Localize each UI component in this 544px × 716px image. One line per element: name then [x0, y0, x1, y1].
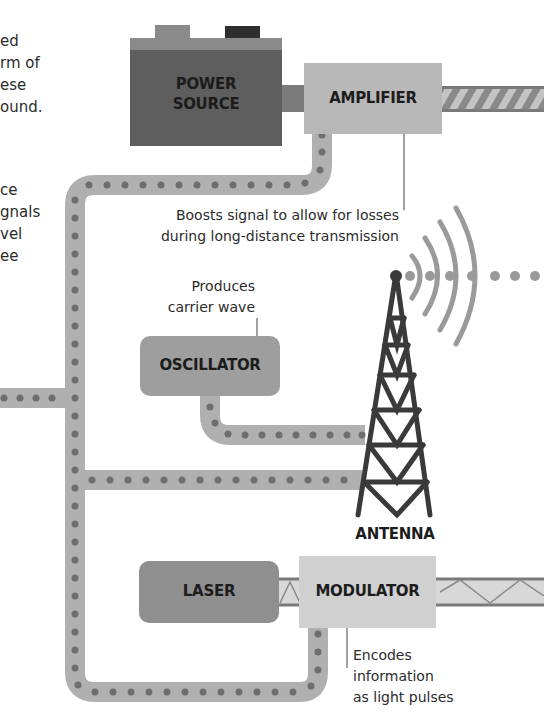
amplifier-annotation: Boosts signal to allow for losses during…	[128, 205, 399, 247]
intro-line: ee	[0, 245, 40, 267]
laser-label: LASER	[139, 582, 279, 600]
intro-line: ound.	[0, 96, 42, 118]
modulator-annotation: Encodes information as light pulses	[353, 645, 454, 708]
signal-dots	[405, 271, 540, 281]
antenna-tip	[390, 270, 402, 282]
intro-line: ce	[0, 179, 40, 201]
intro-line: ese	[0, 74, 42, 96]
intro-paragraph-1: ed rm of ese ound.	[0, 30, 42, 118]
intro-paragraph-2: ce gnals vel ee	[0, 179, 40, 267]
oscillator-annotation: Produces carrier wave	[145, 276, 255, 318]
power-amplifier-connector	[282, 85, 306, 112]
antenna-tower-icon	[358, 280, 430, 515]
oscillator-label: OSCILLATOR	[140, 356, 280, 374]
intro-line: vel	[0, 223, 40, 245]
amplifier-output-cable	[442, 86, 544, 112]
modulator-label: MODULATOR	[299, 582, 436, 600]
intro-line: ed	[0, 30, 42, 52]
radio-waves-icon	[412, 208, 475, 344]
power-source-label: POWER SOURCE	[130, 74, 282, 114]
intro-line: rm of	[0, 52, 42, 74]
intro-line: gnals	[0, 201, 40, 223]
amplifier-label: AMPLIFIER	[304, 89, 442, 107]
antenna-label: ANTENNA	[330, 525, 460, 543]
